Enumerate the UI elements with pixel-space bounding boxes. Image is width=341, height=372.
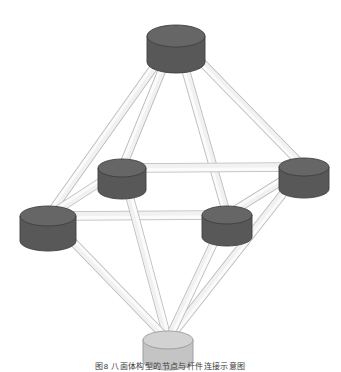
figure-container (0, 0, 341, 372)
node-top-cap (202, 206, 252, 224)
node-top-cap (143, 331, 193, 349)
node-apex-top (147, 25, 205, 73)
node-equator-upright (279, 158, 329, 198)
node-equator-upleft (98, 159, 146, 199)
node-top-cap (147, 25, 205, 47)
node-equator-lowright (202, 206, 252, 246)
node-top-cap (279, 158, 329, 176)
rod-highlight (122, 169, 304, 170)
node-top-cap (98, 159, 146, 177)
octahedral-network-diagram (0, 0, 341, 372)
figure-caption: 图8 八面体构型的节点与杆件连接示意图 (0, 361, 341, 372)
node-equator-lowleft (20, 206, 76, 251)
rod-equator-upleft-to-equator-upright (122, 167, 304, 170)
node-top-cap (20, 206, 76, 226)
